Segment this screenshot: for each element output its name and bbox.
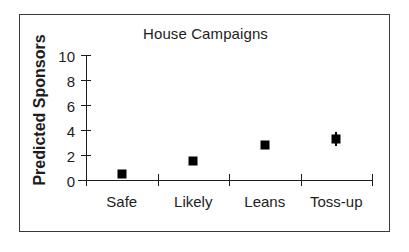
x-tick-4 [372, 174, 373, 186]
data-point-safe [117, 170, 126, 179]
chart-figure: House Campaigns Predicted Sponsors 02468… [19, 14, 390, 232]
y-tick-4: 4 [81, 130, 91, 131]
data-point-likely [189, 156, 198, 165]
y-tick-label-8: 8 [67, 73, 75, 90]
x-tick-2 [229, 174, 230, 186]
x-tick-3 [301, 174, 302, 186]
x-tick-0 [86, 174, 87, 186]
plot-area: 0246810 SafeLikelyLeansToss-up [86, 55, 372, 185]
y-tick-label-2: 2 [67, 148, 75, 165]
y-tick-6: 6 [81, 105, 91, 106]
y-tick-label-4: 4 [67, 123, 75, 140]
chart-title: House Campaigns [20, 25, 391, 42]
x-tick-label-toss-up: Toss-up [310, 193, 363, 210]
data-point-toss-up [332, 134, 341, 143]
x-tick-1 [158, 174, 159, 186]
y-tick-2: 2 [81, 155, 91, 156]
y-tick-8: 8 [81, 80, 91, 81]
y-tick-10: 10 [81, 55, 91, 56]
y-axis-line [86, 55, 87, 180]
x-tick-label-leans: Leans [244, 193, 285, 210]
x-tick-label-safe: Safe [106, 193, 137, 210]
y-tick-label-6: 6 [67, 98, 75, 115]
y-tick-label-0: 0 [67, 173, 75, 190]
x-tick-label-likely: Likely [174, 193, 212, 210]
y-tick-label-10: 10 [58, 48, 75, 65]
y-axis-label: Predicted Sponsors [31, 25, 49, 195]
data-point-leans [260, 141, 269, 150]
x-axis-line [78, 180, 372, 181]
